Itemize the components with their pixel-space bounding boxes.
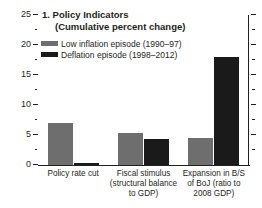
category-label-2: Fiscal stimulus(structural balanceto GDP… xyxy=(106,169,180,199)
category-label-line: Fiscal stimulus xyxy=(106,169,180,179)
bar-deflation-cat3 xyxy=(214,57,239,165)
category-label-line: of BoJ (ratio to xyxy=(177,179,251,189)
category-label-1: Policy rate cut xyxy=(36,169,110,179)
y-tick-mark xyxy=(33,134,38,135)
y-tick-label: 25 xyxy=(21,10,31,19)
y-tick-mark xyxy=(251,134,256,135)
chart-title: 1. Policy Indicators xyxy=(42,9,242,21)
y-tick-mark xyxy=(33,44,38,45)
y-tick-mark xyxy=(252,149,255,150)
y-tick-mark xyxy=(251,44,256,45)
chart-legend: Low inflation episode (1990–97) Deflatio… xyxy=(41,38,182,60)
y-tick-mark xyxy=(251,74,256,75)
y-tick-label: 20 xyxy=(21,40,31,49)
bar-deflation-cat1 xyxy=(74,163,99,165)
category-label-line: Policy rate cut xyxy=(36,169,110,179)
category-label-3: Expansion in B/Sof BoJ (ratio to2008 GDP… xyxy=(177,169,251,199)
category-label-line: 2008 GDP) xyxy=(177,189,251,199)
legend-swatch-low-inflation xyxy=(41,41,58,46)
y-tick-mark xyxy=(35,119,38,120)
category-label-line: Expansion in B/S xyxy=(177,169,251,179)
legend-label-low-inflation: Low inflation episode (1990–97) xyxy=(61,39,182,49)
chart-subtitle: (Cumulative percent change) xyxy=(55,21,242,33)
y-tick-mark xyxy=(35,29,38,30)
x-axis-line xyxy=(38,165,250,166)
y-tick-mark xyxy=(33,104,38,105)
legend-swatch-deflation xyxy=(41,52,58,57)
y-axis-right-line xyxy=(248,15,249,166)
y-tick-mark xyxy=(33,14,38,15)
y-tick-label: 10 xyxy=(21,100,31,109)
category-label-line: to GDP) xyxy=(106,189,180,199)
y-tick-mark xyxy=(252,59,255,60)
y-tick-mark xyxy=(252,29,255,30)
bar-low-inflation-cat3 xyxy=(188,138,213,165)
y-tick-mark xyxy=(252,119,255,120)
bar-deflation-cat2 xyxy=(144,139,169,165)
y-tick-mark xyxy=(35,89,38,90)
category-label-line: (structural balance xyxy=(106,179,180,189)
bar-low-inflation-cat2 xyxy=(118,133,143,165)
y-tick-label: 15 xyxy=(21,70,31,79)
y-tick-mark xyxy=(33,164,38,165)
legend-label-deflation: Deflation episode (1998–2012) xyxy=(61,50,177,60)
y-tick-mark xyxy=(252,89,255,90)
y-tick-mark xyxy=(251,14,256,15)
legend-item-low-inflation: Low inflation episode (1990–97) xyxy=(41,38,182,49)
legend-item-deflation: Deflation episode (1998–2012) xyxy=(41,49,182,60)
y-tick-mark xyxy=(33,74,38,75)
bar-low-inflation-cat1 xyxy=(48,123,73,165)
y-tick-mark xyxy=(35,149,38,150)
y-tick-label: 5 xyxy=(26,130,31,139)
y-tick-mark xyxy=(251,104,256,105)
chart-figure: 1. Policy Indicators (Cumulative percent… xyxy=(0,0,262,208)
chart-title-block: 1. Policy Indicators (Cumulative percent… xyxy=(42,9,242,33)
y-tick-label: 0 xyxy=(26,160,31,169)
y-tick-mark xyxy=(35,59,38,60)
